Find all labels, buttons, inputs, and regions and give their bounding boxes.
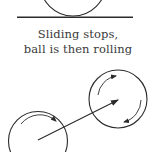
trajectory-arrow	[38, 100, 118, 140]
caption-line-2: ball is then rolling	[0, 42, 156, 56]
right-ball	[89, 70, 147, 128]
top-ball	[40, 0, 106, 16]
rolling-ball-diagram: Sliding stops, ball is then rolling	[0, 0, 167, 152]
left-ball-rotation-arrow	[21, 115, 56, 124]
right-ball-rotation-arrow-bottom	[124, 100, 141, 122]
left-ball	[9, 112, 68, 153]
right-ball-rotation-arrow-top	[98, 76, 116, 95]
caption-line-1: Sliding stops,	[0, 27, 156, 41]
diagram-canvas	[0, 0, 167, 152]
